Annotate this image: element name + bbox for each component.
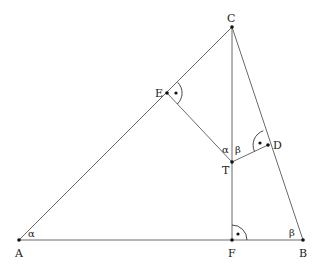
angle-label-beta-B: β <box>289 227 295 238</box>
label-D: D <box>273 139 282 152</box>
label-T: T <box>222 164 230 177</box>
right-angle-mark-E <box>174 82 182 104</box>
label-B: B <box>299 247 307 260</box>
point-D <box>266 143 270 147</box>
segment-AC <box>19 27 232 240</box>
point-A <box>17 238 21 242</box>
point-C <box>230 25 234 29</box>
label-C: C <box>227 12 235 25</box>
triangle-diagram: A B C F E T D α β α β <box>0 0 320 268</box>
label-E: E <box>155 87 163 100</box>
point-F <box>230 238 234 242</box>
angle-label-alpha-A: α <box>28 228 35 239</box>
point-T <box>230 160 234 164</box>
point-B <box>301 238 305 242</box>
label-F: F <box>228 247 236 260</box>
point-E <box>165 91 169 95</box>
label-A: A <box>14 247 24 260</box>
angle-label-alpha-T: α <box>222 144 229 155</box>
segment-BC <box>232 27 303 240</box>
right-angle-mark-F <box>232 225 247 240</box>
angle-label-beta-T: β <box>235 144 241 155</box>
